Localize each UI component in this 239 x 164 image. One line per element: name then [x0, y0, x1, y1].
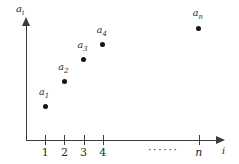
x-tick-label-4: 4 [92, 146, 114, 159]
x-tick-label-n: n [188, 146, 210, 159]
data-point-label-4: a4 [97, 24, 107, 40]
x-tick-4 [103, 135, 104, 145]
y-axis-label-subscript: i [22, 9, 24, 17]
data-point-label-subscript: 1 [45, 92, 49, 100]
data-point-label-1: a1 [39, 86, 49, 102]
scatter-plot-figure: ai i 1234n a1a2a3a4an ······ [0, 0, 239, 164]
y-axis-label: ai [16, 3, 24, 19]
data-point-label-subscript: n [198, 13, 203, 21]
x-tick-n [199, 135, 200, 145]
x-axis-arrow-icon [216, 136, 225, 144]
x-tick-1 [45, 135, 46, 145]
data-point-label-subscript: 2 [64, 67, 68, 75]
data-point-label-subscript: 3 [83, 45, 87, 53]
data-point-label-2: a2 [58, 61, 68, 77]
y-axis-line [26, 24, 27, 141]
data-point-3 [81, 57, 86, 62]
data-point-label-subscript: 4 [102, 30, 106, 38]
data-point-1 [43, 104, 48, 109]
data-point-2 [62, 79, 67, 84]
x-axis-ellipsis: ······ [148, 145, 179, 157]
x-tick-3 [84, 135, 85, 145]
data-point-label-n: an [193, 7, 203, 23]
x-axis-label: i [222, 145, 225, 157]
x-tick-2 [64, 135, 65, 145]
data-point-4 [100, 42, 105, 47]
data-point-n [196, 26, 201, 31]
data-point-label-3: a3 [78, 39, 88, 55]
x-axis-line [26, 140, 219, 141]
